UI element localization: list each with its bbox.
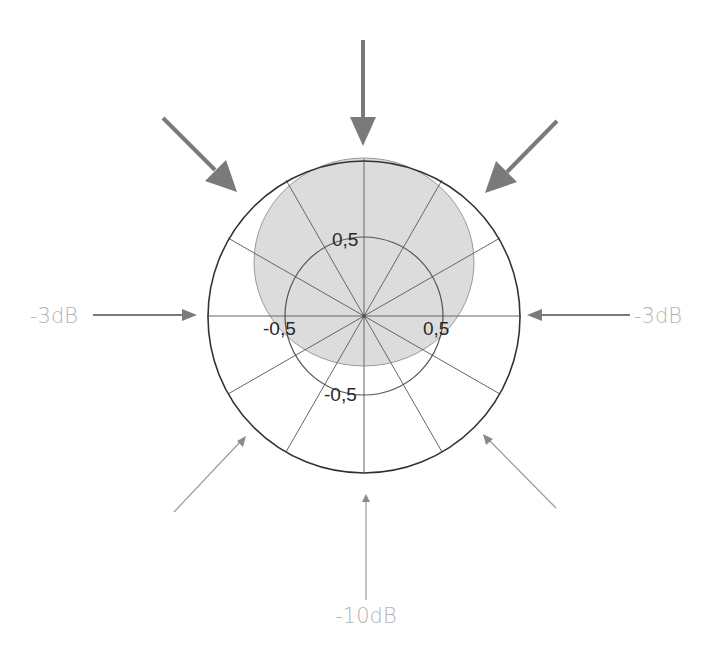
arrow-bottom-right: [483, 434, 556, 508]
arrow-bottom-left: [174, 436, 246, 512]
scale-label-right: 0,5: [423, 318, 449, 339]
origin-point: [362, 314, 366, 318]
arrow-right: [527, 309, 630, 321]
attenuation-label-right: -3dB: [634, 304, 682, 328]
arrow-bottom: [362, 494, 370, 600]
polar-pattern-diagram: 0,5 -0,5 0,5 -0,5 -3dB -3dB -10dB: [0, 0, 720, 660]
arrow-top: [350, 40, 376, 146]
attenuation-label-left: -3dB: [30, 304, 78, 328]
scale-label-left: -0,5: [263, 318, 296, 339]
attenuation-label-bottom: -10dB: [335, 604, 396, 628]
arrow-top-right: [485, 121, 557, 193]
scale-label-top: 0,5: [332, 229, 358, 250]
scale-label-bottom: -0,5: [324, 384, 357, 405]
arrow-top-left: [163, 118, 237, 192]
arrow-left: [93, 309, 197, 321]
